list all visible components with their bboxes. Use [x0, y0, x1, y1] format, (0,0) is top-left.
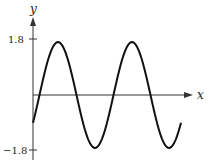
x-axis-label: x	[197, 88, 204, 102]
y-axis-label: y	[29, 2, 37, 16]
y-tick-label-bottom: −1.8	[3, 145, 27, 156]
sinusoid-chart: y x 1.8 −1.8	[0, 0, 213, 167]
y-axis-arrow-icon	[30, 17, 36, 26]
y-tick-label-top: 1.8	[8, 34, 24, 45]
x-axis-arrow-icon	[184, 92, 193, 98]
